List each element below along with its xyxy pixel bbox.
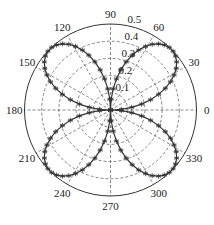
asterisk-marker (162, 42, 167, 47)
radial-tick-label: 0.5 (128, 13, 142, 25)
angle-tick-label: 300 (150, 187, 167, 199)
asterisk-marker (111, 129, 116, 134)
asterisk-marker (43, 54, 48, 59)
asterisk-marker (114, 138, 119, 143)
asterisk-marker (66, 42, 71, 47)
asterisk-marker (44, 72, 49, 77)
asterisk-marker (66, 173, 71, 178)
angle-tick-label: 270 (102, 200, 119, 212)
asterisk-marker (129, 105, 134, 110)
asterisk-marker (60, 41, 65, 46)
asterisk-marker (42, 59, 47, 64)
angle-tick-label: 150 (19, 56, 36, 68)
asterisk-marker (139, 101, 144, 106)
asterisk-marker (174, 59, 179, 64)
asterisk-marker (156, 174, 161, 179)
radial-tick-labels: 0.10.20.30.40.5 (116, 13, 142, 93)
polar-chart: 0306090120150180210240270300330 0.10.20.… (0, 0, 214, 225)
asterisk-marker (143, 44, 148, 49)
asterisk-marker (105, 129, 110, 134)
asterisk-marker (87, 105, 92, 110)
asterisk-marker (44, 142, 49, 147)
asterisk-marker (42, 155, 47, 160)
asterisk-marker (73, 44, 78, 49)
angle-tick-label: 180 (6, 104, 23, 116)
asterisk-marker (77, 113, 82, 118)
asterisk-marker (172, 72, 177, 77)
asterisk-marker (172, 142, 177, 147)
asterisk-marker (108, 107, 113, 112)
asterisk-marker (173, 54, 178, 59)
asterisk-marker (42, 149, 47, 154)
radial-tick-label: 0.3 (122, 47, 136, 59)
asterisk-marker (174, 66, 179, 71)
asterisk-marker (42, 66, 47, 71)
angle-tick-label: 60 (153, 21, 165, 33)
asterisk-marker (73, 171, 78, 176)
angle-tick-label: 120 (54, 21, 71, 33)
angle-tick-label: 30 (188, 56, 200, 68)
radial-tick-label: 0.4 (125, 30, 139, 42)
asterisk-marker (143, 171, 148, 176)
angle-tick-label: 210 (19, 152, 36, 164)
data-series (42, 41, 180, 179)
asterisk-marker (173, 161, 178, 166)
asterisk-marker (139, 113, 144, 118)
asterisk-marker (60, 174, 65, 179)
asterisk-marker (102, 138, 107, 143)
asterisk-marker (54, 172, 59, 177)
angle-tick-label: 330 (186, 152, 203, 164)
asterisk-marker (174, 155, 179, 160)
angle-tick-label: 90 (105, 8, 117, 20)
asterisk-marker (43, 161, 48, 166)
asterisk-marker (156, 41, 161, 46)
radial-tick-label: 0.1 (116, 81, 130, 93)
polar-plot: 0306090120150180210240270300330 0.10.20.… (0, 0, 214, 225)
asterisk-marker (174, 149, 179, 154)
angle-tick-label: 0 (204, 104, 210, 116)
asterisk-marker (162, 172, 167, 177)
asterisk-marker (77, 101, 82, 106)
asterisk-marker (54, 42, 59, 47)
asterisk-marker (150, 173, 155, 178)
asterisk-marker (102, 76, 107, 81)
angle-tick-label: 240 (54, 187, 71, 199)
asterisk-marker (129, 110, 134, 115)
asterisk-marker (87, 110, 92, 115)
asterisk-marker (150, 42, 155, 47)
asterisk-marker (105, 86, 110, 91)
radial-tick-label: 0.2 (119, 64, 133, 76)
